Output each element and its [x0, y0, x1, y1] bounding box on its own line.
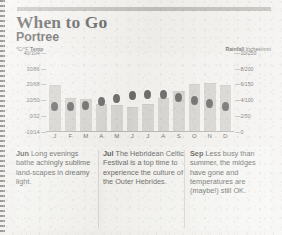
temperature-dot [113, 94, 120, 103]
blurb-month-label: Jul [103, 149, 114, 158]
left-axis-tick-label: 20/68 — [27, 81, 47, 87]
temperature-dot [67, 102, 74, 111]
chart-month-column [49, 53, 61, 132]
seasonal-blurbs: Jun Long evenings bathe achingly sublime… [16, 146, 271, 230]
right-axis-tick-label: — 6/150 [233, 81, 253, 87]
top-rule-divider [17, 7, 271, 11]
left-axis-tick-label: 30/86 — [27, 66, 47, 72]
seasonal-blurb: Sep Less busy than summer, the midges ha… [190, 146, 271, 230]
chart-month-column [189, 53, 201, 132]
page-content: When to Go Portree °C/°F Temp Rainfall I… [0, 0, 282, 235]
right-axis-tick-label: — 0 [233, 129, 243, 135]
right-axis-tick-label: — 2/50 [233, 113, 251, 119]
seasonal-blurb: Jul The Hebridean Celtic Festival is a t… [103, 146, 184, 230]
left-axis-tick-label: 0/32 — [29, 113, 47, 119]
chart-month-column [204, 53, 216, 132]
rainfall-bar [142, 104, 154, 132]
left-axis-tick-label: 10/50 — [27, 97, 47, 103]
temperature-dot [82, 101, 89, 110]
temperature-dot [129, 91, 136, 100]
right-axis-tick-label: — 10/250 [233, 50, 256, 56]
temperature-dot [160, 90, 167, 99]
month-label: M [80, 133, 92, 139]
right-axis-tick-label: — 8/200 [233, 66, 253, 72]
chart-month-column [173, 53, 185, 132]
rainfall-bar [158, 98, 170, 132]
rainfall-bar [96, 104, 108, 132]
chart-baseline [46, 131, 234, 132]
month-label: J [142, 133, 154, 139]
chart-month-column [220, 53, 232, 132]
month-label: F [65, 133, 77, 139]
month-label: D [220, 133, 232, 139]
location-subtitle: Portree [16, 30, 59, 44]
rainfall-bar [111, 105, 123, 132]
blurb-month-label: Jun [16, 149, 29, 158]
rainfall-bar [127, 107, 139, 132]
month-label: A [158, 133, 170, 139]
month-label: M [111, 133, 123, 139]
chart-month-column [142, 53, 154, 132]
chart-month-column [111, 53, 123, 132]
left-axis-tick-label: -10/14 — [25, 129, 47, 135]
blurb-month-label: Sep [190, 149, 203, 158]
chart-month-column [158, 53, 170, 132]
temperature-dot [191, 96, 198, 105]
right-axis-tick-label: — 4/100 [233, 97, 253, 103]
left-axis-tick-label: 40/104 — [24, 50, 47, 56]
month-label: J [49, 133, 61, 139]
temperature-dot [144, 90, 151, 99]
chart-month-column [80, 53, 92, 132]
blurb-text: The Hebridean Celtic Festival is a top t… [103, 149, 184, 186]
temperature-dot [222, 102, 229, 111]
chart-month-column [96, 53, 108, 132]
month-label: J [127, 133, 139, 139]
rainfall-bar [189, 84, 201, 132]
month-label: S [173, 133, 185, 139]
month-label: N [204, 133, 216, 139]
month-label: A [96, 133, 108, 139]
chart-month-column [127, 53, 139, 132]
month-label: O [189, 133, 201, 139]
climate-chart: 40/104 —30/86 —20/68 —10/50 —0/32 —-10/1… [47, 53, 233, 132]
chart-month-column [65, 53, 77, 132]
month-axis-labels: JFMAMJJASOND [47, 133, 233, 142]
seasonal-blurb: Jun Long evenings bathe achingly sublime… [16, 146, 97, 230]
